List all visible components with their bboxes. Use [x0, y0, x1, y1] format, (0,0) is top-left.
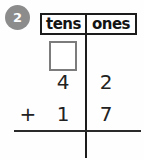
- ones-column-header: ones: [85, 15, 135, 33]
- addend2-ones-digit: 7: [96, 103, 116, 125]
- sum-line: [14, 130, 141, 132]
- plus-operator: +: [18, 103, 38, 125]
- column-divider-line: [85, 35, 87, 158]
- answer-tens-cell[interactable]: [49, 134, 77, 158]
- answer-ones-cell[interactable]: [92, 134, 120, 158]
- problem-number: 2: [13, 11, 22, 24]
- carry-box-input[interactable]: [49, 41, 77, 71]
- worksheet-problem: 2 tens ones 4 2 + 1 7: [0, 0, 144, 160]
- addend2-tens-digit: 1: [53, 103, 73, 125]
- tens-column-header: tens: [42, 15, 85, 33]
- place-value-header: tens ones: [40, 13, 137, 35]
- problem-number-badge: 2: [5, 5, 30, 30]
- addend1-ones-digit: 2: [96, 71, 116, 93]
- addend1-tens-digit: 4: [53, 71, 73, 93]
